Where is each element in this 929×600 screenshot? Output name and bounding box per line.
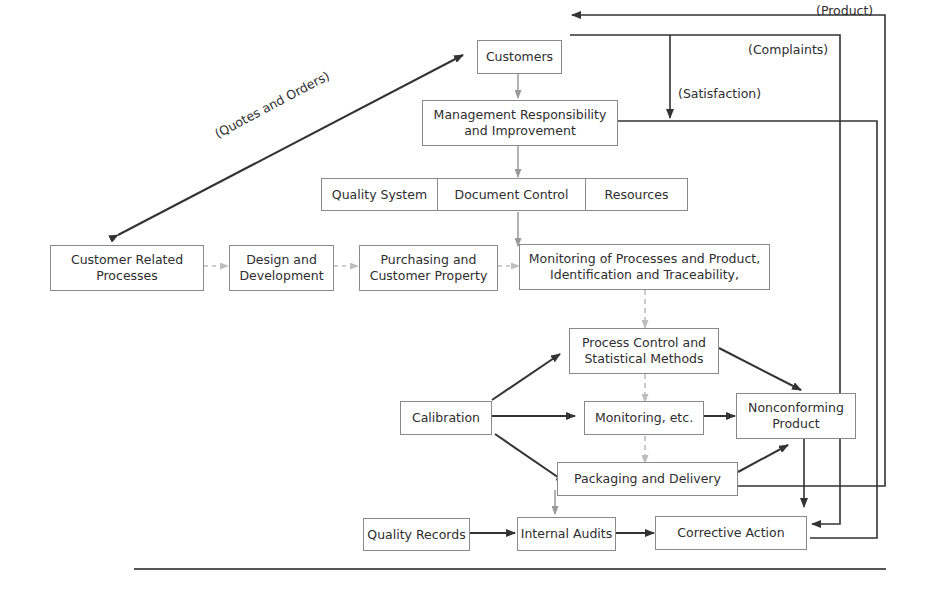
node-document-control-label: Document Control bbox=[455, 187, 569, 203]
node-process-control-line2: Statistical Methods bbox=[584, 351, 703, 367]
node-internal-audits: Internal Audits bbox=[517, 517, 616, 551]
node-resources-label: Resources bbox=[605, 187, 669, 203]
node-process-control-statistical-methods: Process Control and Statistical Methods bbox=[569, 328, 719, 374]
node-resources: Resources bbox=[586, 179, 687, 210]
node-nonconforming-product: Nonconforming Product bbox=[736, 393, 856, 439]
node-monitoring-etc: Monitoring, etc. bbox=[584, 401, 704, 435]
node-purchasing-line2: Customer Property bbox=[370, 268, 488, 284]
label-satisfaction: (Satisfaction) bbox=[678, 86, 761, 101]
node-monitoring-etc-label: Monitoring, etc. bbox=[595, 410, 693, 426]
node-customers-label: Customers bbox=[486, 49, 553, 65]
node-monitoring-processes-product: Monitoring of Processes and Product, Ide… bbox=[519, 244, 770, 290]
node-quality-system: Quality System bbox=[322, 179, 438, 210]
node-purchasing-line1: Purchasing and bbox=[381, 252, 477, 268]
node-customers: Customers bbox=[477, 40, 562, 74]
node-packaging-delivery: Packaging and Delivery bbox=[557, 462, 738, 496]
node-customer-related-line1: Customer Related bbox=[71, 252, 183, 268]
node-quality-records: Quality Records bbox=[363, 518, 470, 551]
node-quality-system-label: Quality System bbox=[332, 187, 427, 203]
node-document-control: Document Control bbox=[438, 179, 586, 210]
bottom-rule bbox=[134, 568, 886, 570]
label-product: (Product) bbox=[816, 3, 873, 18]
node-quality-records-label: Quality Records bbox=[367, 527, 465, 543]
node-calibration-label: Calibration bbox=[412, 410, 480, 426]
node-quality-row: Quality System Document Control Resource… bbox=[321, 178, 688, 211]
node-management: Management Responsibility and Improvemen… bbox=[422, 100, 618, 146]
node-corrective-action-label: Corrective Action bbox=[677, 525, 784, 541]
node-customer-related-processes: Customer Related Processes bbox=[50, 245, 204, 291]
node-nonconforming-line1: Nonconforming bbox=[748, 400, 844, 416]
node-packaging-label: Packaging and Delivery bbox=[574, 471, 721, 487]
node-design-line2: Development bbox=[239, 268, 323, 284]
node-process-control-line1: Process Control and bbox=[582, 335, 706, 351]
node-corrective-action: Corrective Action bbox=[655, 516, 807, 550]
node-monitoring-processes-line1: Monitoring of Processes and Product, bbox=[529, 251, 760, 267]
node-purchasing-customer-property: Purchasing and Customer Property bbox=[359, 245, 498, 291]
node-design-development: Design and Development bbox=[229, 245, 334, 291]
node-monitoring-processes-line2: Identification and Traceability, bbox=[550, 267, 739, 283]
label-complaints: (Complaints) bbox=[748, 42, 828, 57]
node-nonconforming-line2: Product bbox=[772, 416, 819, 432]
node-calibration: Calibration bbox=[400, 401, 492, 435]
node-design-line1: Design and bbox=[246, 252, 317, 268]
connector-layer bbox=[0, 0, 929, 600]
node-customer-related-line2: Processes bbox=[96, 268, 158, 284]
node-management-line1: Management Responsibility bbox=[434, 107, 607, 123]
node-internal-audits-label: Internal Audits bbox=[521, 526, 612, 542]
node-management-line2: and Improvement bbox=[464, 123, 576, 139]
